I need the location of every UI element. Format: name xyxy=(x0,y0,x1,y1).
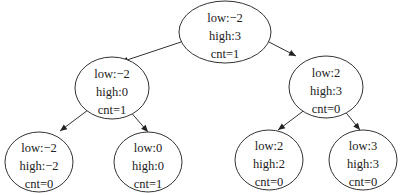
tree-node-left: low:−2high:0cnt=1 xyxy=(75,57,149,119)
arrowhead-icon xyxy=(60,124,67,131)
tree-diagram: low:−2high:3cnt=1low:−2high:0cnt=1low:2h… xyxy=(0,0,401,195)
node-low-label: low:2 xyxy=(312,66,340,80)
node-high-label: high:2 xyxy=(253,157,285,171)
node-high-label: high:0 xyxy=(132,159,164,173)
node-high-label: high:0 xyxy=(96,85,128,99)
tree-node-left-left: low:−2high:−2cnt=0 xyxy=(5,132,73,192)
nodes: low:−2high:3cnt=1low:−2high:0cnt=1low:2h… xyxy=(5,1,397,192)
arrowhead-icon xyxy=(353,123,360,130)
tree-node-left-right: low:0high:0cnt=1 xyxy=(114,132,182,192)
node-high-label: high:3 xyxy=(209,29,241,43)
node-high-label: high:3 xyxy=(310,84,342,98)
node-low-label: low:−2 xyxy=(207,11,243,25)
tree-node-root: low:−2high:3cnt=1 xyxy=(179,1,271,63)
node-cnt-label: cnt=1 xyxy=(98,103,127,117)
node-low-label: low:2 xyxy=(255,139,283,153)
tree-node-right-left: low:2high:2cnt=0 xyxy=(235,130,303,190)
node-cnt-label: cnt=0 xyxy=(255,175,284,189)
node-low-label: low:−2 xyxy=(94,67,130,81)
node-low-label: low:−2 xyxy=(21,141,57,155)
node-cnt-label: cnt=0 xyxy=(312,102,341,116)
edge-line xyxy=(121,42,181,62)
node-high-label: high:3 xyxy=(347,157,379,171)
arrowhead-icon xyxy=(278,123,285,130)
node-low-label: low:3 xyxy=(349,139,377,153)
edge-root-to-right xyxy=(269,42,296,56)
node-cnt-label: cnt=1 xyxy=(211,47,240,61)
node-cnt-label: cnt=1 xyxy=(134,177,163,191)
node-low-label: low:0 xyxy=(134,141,162,155)
edge-left-to-left-left xyxy=(60,110,88,131)
node-cnt-label: cnt=0 xyxy=(349,175,378,189)
tree-node-right-right: low:3high:3cnt=0 xyxy=(329,130,397,190)
edge-right-to-right-left xyxy=(278,109,306,130)
node-cnt-label: cnt=0 xyxy=(25,177,54,191)
node-high-label: high:−2 xyxy=(20,159,59,173)
edge-root-to-left xyxy=(121,42,181,63)
tree-node-right: low:2high:3cnt=0 xyxy=(289,56,363,118)
